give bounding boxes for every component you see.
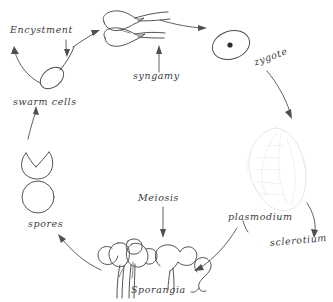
label-sporangia: Sporangia <box>131 284 186 295</box>
arrow-encystment-tick <box>64 40 70 57</box>
arrow-syngamy-to-zygote <box>160 20 207 31</box>
label-plasmodium: plasmodium <box>228 211 293 222</box>
life-cycle-diagram: Encystment swarm cells syngamy zygote pl… <box>0 0 333 302</box>
arrow-swarm-to-syngamy <box>73 30 100 47</box>
label-swarm-cells: swarm cells <box>13 96 77 107</box>
gametes-fusing-shape <box>103 11 170 46</box>
zygote-nucleus <box>227 42 232 47</box>
zygote-shape <box>209 26 254 64</box>
arrow-plasmodium-to-sporangia <box>194 228 237 271</box>
arrow-syngamy-up <box>156 45 162 72</box>
label-spores: spores <box>28 218 63 229</box>
arrow-spores-to-swarm-cells <box>28 106 39 139</box>
plasmodium-shape <box>247 128 306 211</box>
arrow-meiosis <box>160 207 166 238</box>
arrow-swarm-to-encystment <box>11 46 40 83</box>
arrow-sclerotium-tick <box>243 221 248 232</box>
arrow-zygote-to-plasmodium <box>267 71 292 119</box>
label-encystment: Encystment <box>10 24 73 35</box>
swarm-cell-shape <box>36 47 74 93</box>
label-syngamy: syngamy <box>133 70 180 81</box>
germinating-spore-shape <box>22 152 53 179</box>
label-meiosis: Meiosis <box>138 192 179 203</box>
arrow-sporangia-to-spores <box>58 234 101 270</box>
spore-shape <box>22 181 54 213</box>
